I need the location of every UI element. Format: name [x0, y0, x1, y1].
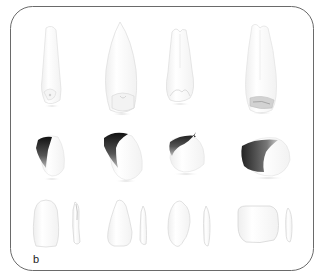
panel-label: b	[33, 253, 39, 265]
figure-panel	[0, 0, 320, 278]
